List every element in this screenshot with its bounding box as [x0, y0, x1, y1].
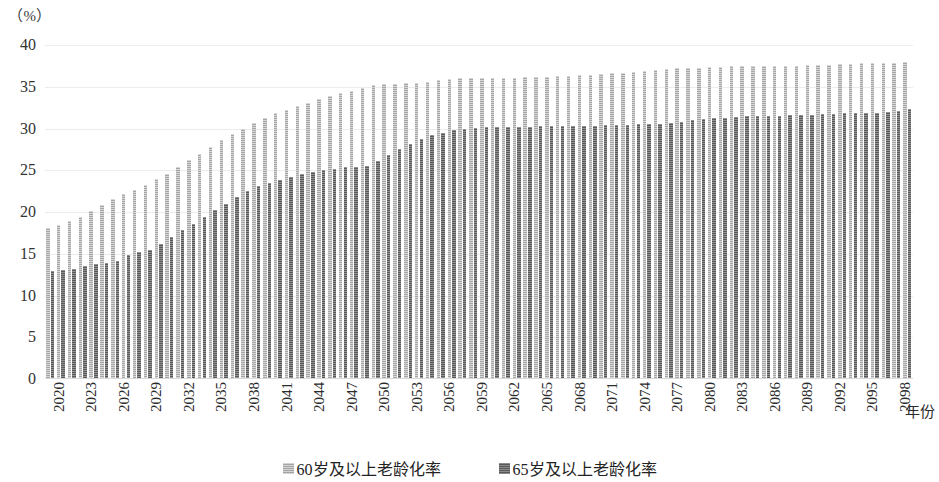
bar-group[interactable] — [750, 45, 761, 379]
bar-65plus[interactable] — [365, 166, 368, 379]
bar-65plus[interactable] — [463, 129, 466, 380]
bar-60plus[interactable] — [372, 85, 375, 379]
bar-60plus[interactable] — [632, 72, 635, 379]
bar-60plus[interactable] — [610, 73, 613, 379]
bar-group[interactable] — [902, 45, 913, 379]
bar-65plus[interactable] — [83, 266, 86, 379]
bar-65plus[interactable] — [571, 126, 574, 379]
bar-60plus[interactable] — [220, 140, 223, 379]
bar-group[interactable] — [718, 45, 729, 379]
bar-60plus[interactable] — [686, 68, 689, 379]
bar-65plus[interactable] — [72, 269, 75, 379]
bar-65plus[interactable] — [344, 167, 347, 379]
bar-group[interactable] — [631, 45, 642, 379]
bar-65plus[interactable] — [832, 114, 835, 379]
bar-group[interactable] — [761, 45, 772, 379]
bar-group[interactable] — [457, 45, 468, 379]
bar-65plus[interactable] — [246, 191, 249, 379]
bar-60plus[interactable] — [556, 76, 559, 379]
bar-60plus[interactable] — [339, 93, 342, 379]
bar-group[interactable] — [826, 45, 837, 379]
bar-60plus[interactable] — [697, 68, 700, 379]
bar-65plus[interactable] — [278, 180, 281, 379]
bar-65plus[interactable] — [745, 116, 748, 379]
bar-group[interactable] — [78, 45, 89, 379]
bar-group[interactable] — [848, 45, 859, 379]
bar-group[interactable] — [338, 45, 349, 379]
bar-65plus[interactable] — [875, 113, 878, 379]
bar-65plus[interactable] — [94, 264, 97, 379]
bar-group[interactable] — [175, 45, 186, 379]
bar-group[interactable] — [479, 45, 490, 379]
bar-60plus[interactable] — [719, 67, 722, 379]
bar-65plus[interactable] — [452, 130, 455, 379]
bar-group[interactable] — [436, 45, 447, 379]
bar-65plus[interactable] — [224, 204, 227, 379]
bar-group[interactable] — [772, 45, 783, 379]
bar-group[interactable] — [696, 45, 707, 379]
bar-65plus[interactable] — [854, 113, 857, 379]
bar-65plus[interactable] — [756, 116, 759, 379]
bar-group[interactable] — [566, 45, 577, 379]
bar-65plus[interactable] — [441, 133, 444, 379]
bar-group[interactable] — [240, 45, 251, 379]
bar-group[interactable] — [544, 45, 555, 379]
bar-group[interactable] — [837, 45, 848, 379]
bar-60plus[interactable] — [578, 75, 581, 379]
bar-60plus[interactable] — [816, 65, 819, 379]
bar-60plus[interactable] — [599, 74, 602, 379]
bar-60plus[interactable] — [751, 66, 754, 379]
bar-65plus[interactable] — [137, 252, 140, 379]
bar-60plus[interactable] — [89, 211, 92, 379]
bar-group[interactable] — [262, 45, 273, 379]
bar-group[interactable] — [132, 45, 143, 379]
bar-60plus[interactable] — [176, 167, 179, 379]
bar-60plus[interactable] — [458, 78, 461, 379]
bar-65plus[interactable] — [897, 111, 900, 379]
bar-60plus[interactable] — [491, 78, 494, 379]
bar-65plus[interactable] — [289, 177, 292, 379]
bar-65plus[interactable] — [734, 117, 737, 379]
bar-group[interactable] — [349, 45, 360, 379]
bar-60plus[interactable] — [882, 63, 885, 379]
bar-65plus[interactable] — [51, 271, 54, 379]
bar-group[interactable] — [620, 45, 631, 379]
bar-group[interactable] — [533, 45, 544, 379]
bar-group[interactable] — [197, 45, 208, 379]
bar-65plus[interactable] — [506, 127, 509, 379]
bar-60plus[interactable] — [231, 134, 234, 379]
bar-60plus[interactable] — [144, 185, 147, 379]
bar-group[interactable] — [154, 45, 165, 379]
bar-group[interactable] — [208, 45, 219, 379]
bar-group[interactable] — [45, 45, 56, 379]
bar-65plus[interactable] — [799, 115, 802, 379]
bar-60plus[interactable] — [675, 68, 678, 379]
bar-65plus[interactable] — [550, 126, 553, 379]
bar-group[interactable] — [739, 45, 750, 379]
bar-60plus[interactable] — [708, 67, 711, 379]
bar-65plus[interactable] — [886, 112, 889, 379]
bar-65plus[interactable] — [159, 244, 162, 379]
bar-group[interactable] — [251, 45, 262, 379]
bar-60plus[interactable] — [448, 79, 451, 379]
bar-60plus[interactable] — [545, 77, 548, 379]
bar-65plus[interactable] — [647, 124, 650, 379]
bar-group[interactable] — [577, 45, 588, 379]
bar-65plus[interactable] — [148, 250, 151, 379]
bar-60plus[interactable] — [827, 65, 830, 379]
bar-60plus[interactable] — [480, 78, 483, 379]
bar-65plus[interactable] — [604, 125, 607, 379]
bar-65plus[interactable] — [398, 149, 401, 379]
bar-group[interactable] — [729, 45, 740, 379]
bar-group[interactable] — [360, 45, 371, 379]
bar-60plus[interactable] — [567, 76, 570, 379]
bar-60plus[interactable] — [57, 225, 60, 379]
bar-60plus[interactable] — [68, 221, 71, 379]
bar-65plus[interactable] — [300, 174, 303, 379]
bar-65plus[interactable] — [322, 170, 325, 379]
bar-group[interactable] — [512, 45, 523, 379]
bar-65plus[interactable] — [170, 237, 173, 379]
bar-group[interactable] — [88, 45, 99, 379]
bar-group[interactable] — [501, 45, 512, 379]
bar-60plus[interactable] — [393, 84, 396, 379]
